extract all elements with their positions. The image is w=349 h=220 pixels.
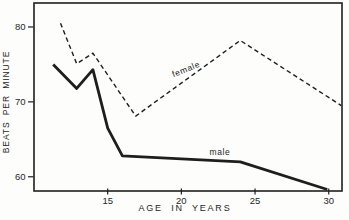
y-tick-label: 70 bbox=[15, 96, 26, 107]
male-line-label: male bbox=[210, 147, 231, 157]
y-tick-label: 60 bbox=[15, 171, 26, 182]
plot-border bbox=[34, 3, 342, 191]
female-line-label: female bbox=[171, 59, 202, 79]
y-tick-label: 80 bbox=[15, 21, 26, 32]
chart-generated-layer: 60708015202530 bbox=[15, 3, 342, 206]
x-tick-label: 30 bbox=[323, 195, 334, 206]
male-line bbox=[53, 64, 327, 189]
chart-canvas: 60708015202530 female male AGE IN YEARS … bbox=[0, 0, 349, 220]
heart-rate-by-age-line-chart: 60708015202530 female male AGE IN YEARS … bbox=[0, 0, 349, 220]
x-axis-title: AGE IN YEARS bbox=[139, 203, 232, 213]
y-axis-title: BEATS PER MINUTE bbox=[1, 51, 11, 153]
x-tick-label: 25 bbox=[250, 195, 261, 206]
x-tick-label: 15 bbox=[102, 195, 113, 206]
female-line bbox=[61, 23, 342, 116]
